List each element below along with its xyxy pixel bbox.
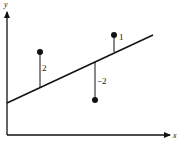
y-axis-label: y: [3, 0, 8, 9]
residual-label-1: 2: [42, 63, 47, 73]
data-point-2: [92, 97, 98, 103]
fitted-line: [7, 35, 153, 103]
residual-label-2: −2: [97, 76, 107, 86]
data-point-1: [37, 49, 43, 55]
residual-label-3: 1: [119, 32, 124, 42]
residual-diagram: y x 2 −2 1: [0, 0, 179, 150]
data-point-3: [111, 32, 117, 38]
x-axis-label: x: [172, 131, 177, 140]
